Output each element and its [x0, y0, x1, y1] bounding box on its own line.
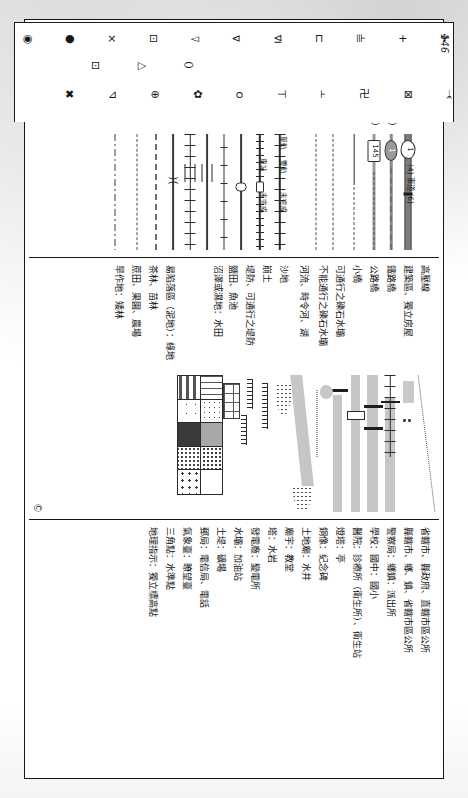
legend-row-township-office: 縣轄市、鄉、鎮、省轄市區公所: [399, 527, 416, 766]
symbol-narrow-gauge-rail: 車站 未完成: [253, 134, 268, 250]
legend-row-dyke-mine: 土堤：礦場: [212, 527, 229, 766]
symbol-orchard: [128, 375, 143, 512]
symbol-bank-row-2: ⊡ ▷ ⬭: [91, 60, 210, 71]
legend-row-built-up: 建築區、獨立房屋: [399, 265, 416, 512]
cell-dryfield: [178, 447, 200, 471]
map-legend-sheet: 公路及鐵路： 國道（高速公路） 1 (4) 車道 (6) 省道（硬面路、鬆面路）…: [24, 19, 444, 779]
land-cover-grid: [177, 375, 223, 495]
symbol-quicksand: [162, 375, 177, 512]
symbol-passable-gravel-dam: [332, 375, 347, 512]
symbol-cable-car: [217, 134, 232, 250]
symbol-standard-gauge-rail: 單軌 雙軌 未完成: [273, 134, 288, 250]
legend-label: 警察局：鄉鎮：派出所: [386, 527, 395, 645]
symbol-road-tunnel: [200, 134, 215, 250]
legend-label: 燈塔：亭: [335, 527, 344, 645]
highway-shield: 1: [401, 140, 416, 159]
symbol-boundary-province: [149, 134, 164, 250]
legend-row-tea: 茶林、苗林: [144, 265, 161, 512]
symbol-impassable-gravel-dam: [315, 375, 330, 512]
legend-label: 塔：水岩: [267, 527, 276, 645]
legend-row-statue: 銅像：紀念碑: [314, 527, 331, 766]
legend-row-city-county-hall: 省轄市、縣政府、直轄市區公所: [416, 527, 433, 766]
legend-label: 鐵路橋: [386, 265, 395, 369]
symbol-river-lake: [296, 375, 311, 512]
legend-label: 縣轄市、鄉、鎮、省轄市區公所: [403, 527, 412, 645]
symbol-railway-bridge: [383, 375, 398, 512]
legend-row-orchard: 蔗田、果園、農場: [127, 265, 144, 512]
legend-row-road-bridge: 公路橋: [365, 265, 382, 512]
legend-row-school: 學校：國中：國小: [365, 527, 382, 766]
legend-row-levee: 堤防、可通行之堤防: [241, 265, 258, 512]
symbol-track: [326, 134, 341, 250]
legend-row-spot-height: 地理指示：獨立標高點: [144, 527, 161, 766]
symbol-built-up-area: [400, 375, 415, 512]
panel-point-features: 省轄市、縣政府、直轄市區公所 縣轄市、鄉、鎮、省轄市區公所 警察局：鄉鎮：派出所…: [29, 519, 439, 773]
legend-row-river: 河流、時令河、湖: [292, 265, 314, 512]
provincial-shield: 1: [385, 140, 398, 161]
legend-row-quicksand: 易陷落區（泥地）：綠地: [161, 265, 178, 512]
symbol-provincial-road: 1: [384, 134, 399, 250]
cell-nursery: [178, 400, 200, 424]
legend-row-dam-gas-station: 水壩：加油站: [229, 527, 246, 766]
legend-label: 省轄市、縣政府、直轄市區公所: [420, 527, 429, 645]
symbol-tea: [145, 375, 160, 512]
symbol-landslide: [259, 375, 274, 512]
legend-row-railway-bridge: 鐵路橋: [382, 265, 399, 512]
legend-label: 銅像：紀念碑: [318, 527, 327, 645]
legend-label: 土地廟：水井: [301, 527, 310, 645]
symbol-bank-row-3: ✖ ⊿ ⊕ ✿ ᴑ ⊣ ⊦ 卍 ⊠ ᛦ ⊶ ⊖ ⊡ ⊢ ◁ ·: [65, 89, 468, 100]
symbol-levee: [242, 375, 257, 512]
symbol-power-line: [417, 375, 432, 512]
legend-row-dry-farmland: 旱作地：矮林: [110, 265, 127, 512]
cell-mud: [200, 423, 222, 447]
cell-paddy: [200, 376, 222, 400]
rail-annotation-single: 單軌: [280, 136, 290, 150]
legend-label: 郵局：電信局、電話: [199, 527, 208, 645]
lane-count-note: (4) 車道 (6): [406, 164, 417, 204]
legend-label: 醫院：診療所（衛生所）、衛生站: [352, 527, 361, 645]
legend-row-weather-station: 氣象臺：瞭望臺: [178, 527, 195, 766]
cell-tea: [178, 376, 200, 400]
legend-row-triangulation: 三角點：水準點: [161, 527, 178, 766]
rail-annotation-double: 雙軌: [280, 160, 290, 174]
legend-label: 易陷落區（泥地）：綠地: [165, 265, 174, 369]
symbol-other-road: [347, 134, 362, 250]
cell-marsh: [200, 400, 222, 424]
legend-row-footbridge: 小橋: [348, 265, 365, 512]
cell-scrub: [178, 470, 200, 494]
symbol-footbridge: [349, 375, 364, 512]
legend-label: 公路橋: [369, 265, 378, 369]
legend-label: 茶林、苗林: [148, 265, 157, 369]
rail-annotation-incomplete: 未完成: [280, 192, 290, 213]
legend-label: 可通行之礫石水壩: [335, 265, 344, 369]
symbol-boundary-county: [130, 134, 145, 250]
symbol-land-cover-table: [179, 375, 223, 512]
legend-label: 不能通行之礫石水壩: [318, 265, 327, 369]
symbol-freeway: 1 (4) 車道 (6): [401, 134, 416, 250]
legend-label: 蔗田、果園、農場: [131, 265, 140, 369]
page-number: 146: [439, 34, 450, 53]
copyright-mark: ©: [32, 503, 43, 513]
legend-row-landslide: 崩土: [258, 265, 275, 512]
county-shield: 145: [368, 140, 381, 162]
point-symbol-bank: ◉ ● × ⊡ ◅ ⊲ ⊴ ⊓ ⊪ + ♆ ♀ ▭ ✕ ꝏ ꝏ ⊡ ⊡ ▷ ⬭ …: [14, 22, 454, 122]
legend-row-police: 警察局：鄉鎮：派出所: [382, 527, 399, 766]
legend-row-sand: 沙地: [275, 265, 292, 512]
symbol-county-road: 145: [367, 134, 382, 250]
symbol-rapid-transit: [234, 134, 249, 250]
legend-label: 高壓線: [420, 265, 429, 369]
legend-label: 崩土: [262, 265, 271, 369]
legend-label: 水壩：加油站: [233, 527, 242, 645]
legend-row-impassable-dam: 不能通行之礫石水壩: [314, 265, 331, 512]
symbol-salt-pan-fish-pond: [225, 375, 240, 512]
symbol-narrow-pass: )(: [166, 134, 181, 250]
symbol-trail: [309, 134, 324, 250]
legend-label: 旱作地：矮林: [114, 265, 123, 369]
symbol-rail-tunnel: [183, 134, 198, 250]
cell-orchard: [178, 423, 200, 447]
legend-label: 鹽田、魚池: [228, 265, 237, 369]
symbol-bank-row-1: ◉ ● × ⊡ ◅ ⊲ ⊴ ⊓ ⊪ + ♆ ♀ ▭ ✕ ꝏ ꝏ ⊡: [23, 33, 468, 44]
symbol-boundary-township: [108, 134, 123, 250]
legend-label: 沙地: [279, 265, 288, 369]
legend-label: 小橋: [352, 265, 361, 369]
